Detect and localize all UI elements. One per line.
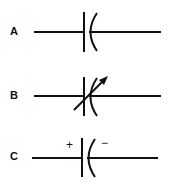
- fixed-capacitor-icon: [34, 12, 161, 52]
- polarized-capacitor-icon: [32, 138, 158, 177]
- positive-sign: +: [66, 138, 73, 152]
- schematic-lines: [0, 0, 177, 185]
- negative-sign: −: [101, 136, 108, 150]
- variable-capacitor-icon: [34, 77, 161, 116]
